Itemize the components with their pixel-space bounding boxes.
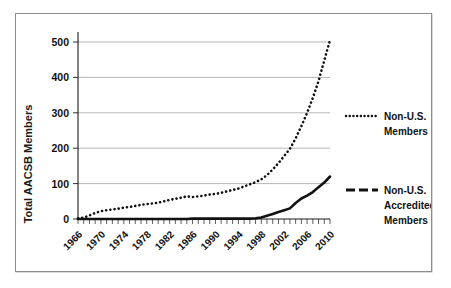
x-tick-label: 1966 <box>61 228 85 252</box>
y-tick-label: 400 <box>51 71 69 83</box>
y-tick-label: 200 <box>51 142 69 154</box>
line-chart: 0100200300400500 19661970197419781982198… <box>16 14 431 271</box>
x-tick-label: 1970 <box>84 228 108 252</box>
x-tick-label: 1982 <box>153 228 177 252</box>
x-tick-label: 1994 <box>221 228 245 252</box>
x-tick-label: 1986 <box>175 228 199 252</box>
x-tick-label: 1978 <box>130 228 154 252</box>
legend-label: Members <box>384 215 428 226</box>
x-tick-label: 1990 <box>198 228 222 252</box>
y-tick-label: 500 <box>51 36 69 48</box>
legend-label: Members <box>384 126 428 137</box>
legend-label: Accredited <box>384 200 431 211</box>
y-tick-label: 300 <box>51 107 69 119</box>
legend-label: Non-U.S. <box>384 111 426 122</box>
x-tick-label: 2006 <box>290 228 314 252</box>
y-tick-label: 0 <box>63 213 69 225</box>
x-axis-tick-labels-group: 1966197019741978198219861990199419982002… <box>61 228 337 252</box>
chart-figure-frame: 0100200300400500 19661970197419781982198… <box>15 13 432 272</box>
legend-label: Non-U.S. <box>384 185 426 196</box>
y-axis-tick-labels-group: 0100200300400500 <box>51 36 69 225</box>
x-tick-label: 1974 <box>107 228 131 252</box>
x-tick-label: 2002 <box>267 228 291 252</box>
series-non-us-members <box>78 40 330 218</box>
x-tick-label: 1998 <box>244 228 268 252</box>
y-tick-label: 100 <box>51 178 69 190</box>
chart-legend: Non-U.S.MembersNon-U.S.AccreditedMembers <box>346 111 431 226</box>
y-axis-ticks-group <box>73 42 78 219</box>
series-non-us-accredited-members <box>78 177 330 219</box>
gridlines-group <box>78 42 330 184</box>
x-tick-label: 2010 <box>313 228 337 252</box>
y-axis-title: Total AACSB Members <box>22 105 34 224</box>
